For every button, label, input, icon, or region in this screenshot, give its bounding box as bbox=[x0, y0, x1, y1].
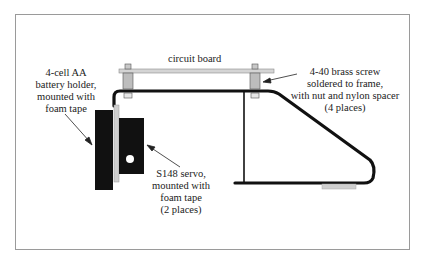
brass-screw-label: 4-40 brass screw soldered to frame, with… bbox=[290, 66, 400, 114]
servo-label-line: S148 servo, bbox=[148, 168, 214, 180]
servo-output-shaft bbox=[126, 155, 134, 163]
right-screw-bottom bbox=[251, 93, 259, 98]
servo-arrowhead bbox=[147, 145, 155, 151]
left-nylon-spacer bbox=[123, 73, 133, 89]
right-nylon-spacer bbox=[250, 73, 260, 89]
battery-holder-label: 4-cell AA battery holder, mounted with f… bbox=[29, 67, 103, 115]
left-screw-bottom bbox=[124, 93, 132, 98]
battery-leader bbox=[65, 114, 90, 142]
servo-label: S148 servo, mounted with foam tape (2 pl… bbox=[148, 168, 214, 216]
brass-screw-label-line: with nut and nylon spacer bbox=[290, 90, 400, 102]
right-screw-nut bbox=[252, 64, 258, 69]
brass-screw-label-line: (4 places) bbox=[290, 102, 400, 114]
servo-label-line: mounted with bbox=[148, 180, 214, 192]
servo bbox=[119, 118, 144, 174]
brass-screw-label-line: 4-40 brass screw bbox=[290, 66, 400, 78]
servo-leader bbox=[150, 147, 180, 167]
left-screw-nut bbox=[125, 64, 131, 69]
foam-pad bbox=[322, 184, 356, 189]
servo-label-line: (2 places) bbox=[148, 204, 214, 216]
robot-frame-diagram bbox=[0, 0, 425, 264]
circuit-board bbox=[119, 69, 274, 73]
circuit-board-label: circuit board bbox=[168, 53, 221, 65]
servo-label-line: foam tape bbox=[148, 192, 214, 204]
brass-screw-label-line: soldered to frame, bbox=[290, 78, 400, 90]
battery-holder-label-line: foam tape bbox=[29, 103, 103, 115]
battery-holder-label-line: 4-cell AA bbox=[29, 67, 103, 79]
battery-arrowhead bbox=[85, 137, 92, 145]
battery-holder-label-line: battery holder, bbox=[29, 79, 103, 91]
screw-arrowhead bbox=[263, 78, 271, 83]
battery-holder bbox=[95, 110, 113, 190]
battery-holder-label-line: mounted with bbox=[29, 91, 103, 103]
foam-tape-strip bbox=[114, 105, 119, 182]
